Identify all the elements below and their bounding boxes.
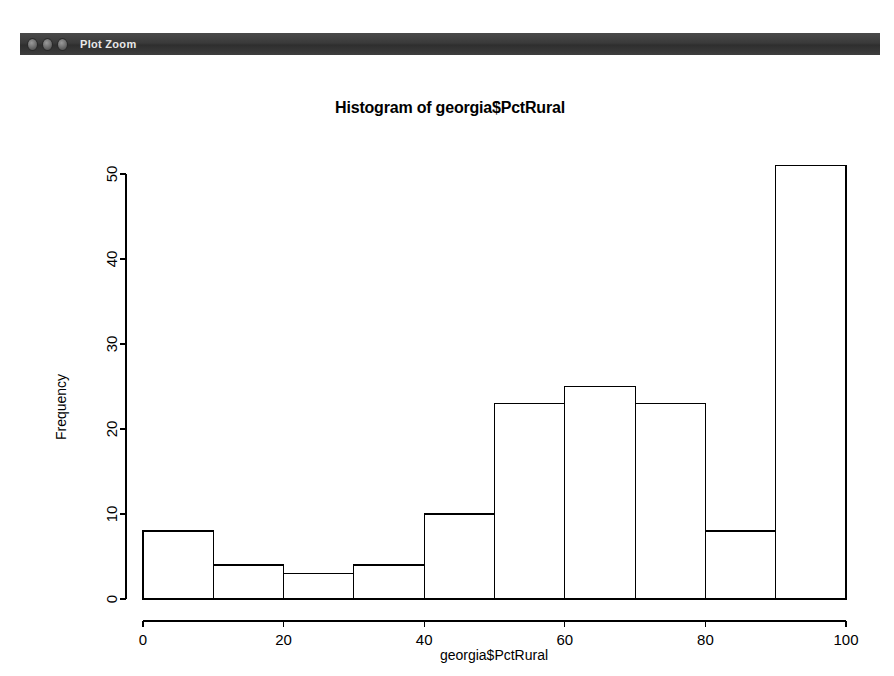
y-axis-tick-label: 40 [103,251,120,268]
x-axis-tick-label: 100 [833,631,858,648]
x-axis: 020406080100 [139,621,859,648]
histogram-bar [565,387,635,600]
histogram-bar [143,531,213,599]
x-axis-tick-label: 20 [275,631,292,648]
histogram-bar [424,514,494,599]
histogram-bar [776,166,846,600]
y-axis-tick-label: 0 [103,595,120,603]
histogram-bar [635,404,705,600]
histogram-bar [284,574,354,600]
y-axis-tick-label: 20 [103,421,120,438]
plot-canvas: Histogram of georgia$PctRural 0102030405… [20,55,880,676]
minimize-button[interactable] [42,38,53,51]
histogram-bar [495,404,565,600]
window-titlebar[interactable]: Plot Zoom [20,33,880,55]
maximize-button[interactable] [57,38,68,51]
histogram-bar [705,531,775,599]
x-axis-tick-label: 80 [697,631,714,648]
x-axis-tick-label: 0 [139,631,147,648]
histogram-bar [354,565,424,599]
plot-zoom-window: Plot Zoom Histogram of georgia$PctRural … [20,33,880,676]
window-title: Plot Zoom [80,38,136,50]
x-axis-tick-label: 40 [416,631,433,648]
x-axis-label: georgia$PctRural [440,647,548,663]
y-axis-tick-label: 50 [103,166,120,183]
histogram-bar [213,565,283,599]
y-axis-tick-label: 10 [103,506,120,523]
histogram-chart: 01020304050 020406080100 Frequency georg… [20,55,880,676]
y-axis: 01020304050 [103,166,126,604]
x-axis-tick-label: 60 [556,631,573,648]
close-button[interactable] [27,38,38,51]
y-axis-label: Frequency [53,374,69,440]
y-axis-tick-label: 30 [103,336,120,353]
bars-group [143,166,846,600]
